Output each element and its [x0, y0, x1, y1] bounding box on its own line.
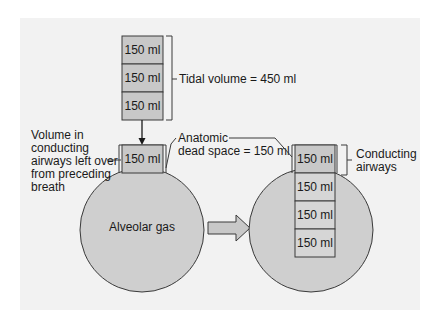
right-stack: 150 ml 150 ml 150 ml 150 ml [295, 145, 335, 257]
tidal-volume-stack: 150 ml 150 ml 150 ml [122, 36, 163, 120]
tidal-box-3-label: 150 ml [124, 99, 160, 113]
conducting-box-label: 150 ml [297, 152, 333, 166]
alveolar-box-1-label: 150 ml [297, 180, 333, 194]
tidal-box-2-label: 150 ml [124, 71, 160, 85]
alveolar-gas-label: Alveolar gas [109, 220, 175, 234]
dead-space-box-left-label: 150 ml [124, 152, 160, 166]
tidal-box-1-label: 150 ml [124, 43, 160, 57]
dead-space-diagram: Alveolar gas 150 ml 150 ml 150 ml Tidal … [0, 0, 433, 328]
alveolar-box-2-label: 150 ml [297, 208, 333, 222]
alveolar-box-3-label: 150 ml [297, 236, 333, 250]
tidal-volume-label: Tidal volume = 450 ml [179, 72, 296, 86]
